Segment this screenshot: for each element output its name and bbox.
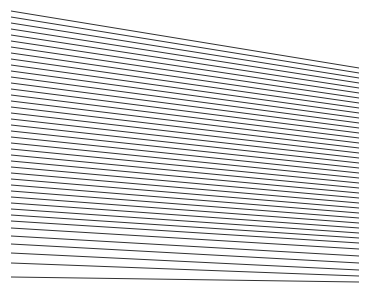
line-fan-svg xyxy=(0,0,371,288)
figure-canvas-container xyxy=(0,0,371,288)
